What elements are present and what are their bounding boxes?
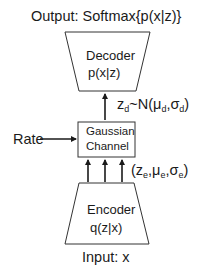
decoder-arrow-label: zd~N(μd,σd) [117,97,189,112]
channel-line1: Gaussian [86,126,135,138]
decoder-formula: p(x|z) [88,66,120,79]
decoder-title: Decoder [86,49,135,62]
input-label: Input: x [82,250,130,265]
output-label: Output: Softmax{p(x|z)} [31,9,181,24]
channel-line2: Channel [86,141,129,153]
encoder-arrow-label: (ze,μe,σe) [131,163,188,178]
encoder-formula: q(z|x) [90,221,122,234]
encoder-title: Encoder [87,203,135,216]
rate-label: Rate [13,132,44,147]
